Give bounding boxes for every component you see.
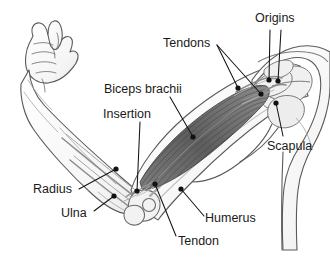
- radius-dot-marker: [113, 166, 118, 171]
- tendon-dot-1-marker: [235, 85, 240, 90]
- label-ulna: Ulna: [61, 207, 87, 220]
- olecranon: [124, 205, 145, 225]
- scapula-dot-marker: [273, 100, 278, 105]
- insertion-dot-marker: [134, 188, 139, 193]
- label-origins: Origins: [255, 12, 295, 25]
- ulna-dot-marker: [111, 193, 116, 198]
- label-scapula: Scapula: [267, 140, 312, 153]
- label-tendon: Tendon: [178, 235, 219, 248]
- label-humerus: Humerus: [205, 212, 256, 225]
- label-insertion: Insertion: [103, 108, 151, 121]
- joint-knob: [143, 199, 156, 212]
- label-tendons: Tendons: [163, 37, 210, 50]
- label-biceps-brachii: Biceps brachii: [104, 83, 182, 96]
- thumb-shape: [48, 21, 62, 50]
- tendon-dot-2-marker: [258, 91, 263, 96]
- leader-tendons-1: [217, 45, 238, 88]
- origin-dot-1-marker: [266, 77, 271, 82]
- origin-dot-2-marker: [275, 78, 280, 83]
- leader-humerus: [181, 189, 204, 216]
- humeral-head: [268, 95, 305, 127]
- label-radius: Radius: [33, 183, 72, 196]
- anatomy-diagram-figure: Origins Tendons Biceps brachii Insertion…: [0, 0, 330, 258]
- biceps-dot-marker: [190, 134, 195, 139]
- humerus-dot-marker: [178, 186, 183, 191]
- tendon-low-dot-marker: [152, 181, 157, 186]
